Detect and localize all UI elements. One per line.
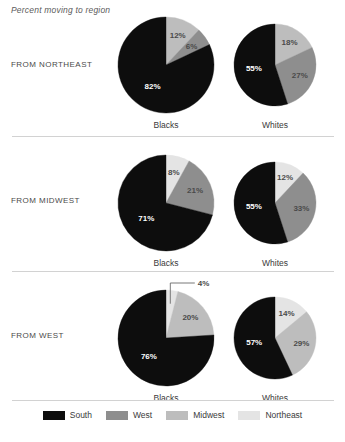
legend-swatch-northeast — [238, 411, 260, 420]
slice-label: 57% — [246, 338, 262, 347]
legend-swatch-midwest — [166, 411, 188, 420]
slice-label: 20% — [182, 313, 198, 322]
legend-item-west: West — [106, 410, 152, 420]
legend-item-midwest: Midwest — [166, 410, 224, 420]
pie-caption-blacks: Blacks — [116, 120, 216, 130]
legend-label: Northeast — [265, 410, 302, 420]
slice-label: 6% — [186, 42, 198, 51]
row-label-0: FROM NORTHEAST — [11, 60, 92, 69]
legend-label: South — [70, 410, 92, 420]
slice-label: 14% — [278, 309, 294, 318]
pie-chart-from-west-blacks: 4%20%76% — [115, 287, 217, 389]
slice-label: 12% — [277, 173, 293, 182]
pie-chart-from-northeast-whites: 18%27%55% — [231, 21, 319, 109]
row-divider — [12, 136, 334, 137]
slice-label: 4% — [198, 279, 210, 288]
pie-caption-whites: Whites — [225, 120, 325, 130]
pie-caption-blacks: Blacks — [116, 258, 216, 268]
slice-label: 55% — [246, 202, 262, 211]
slice-label: 27% — [292, 71, 308, 80]
slice-label: 82% — [145, 82, 161, 91]
slice-label: 71% — [138, 214, 154, 223]
legend-item-south: South — [43, 410, 92, 420]
pie-caption-whites: Whites — [225, 393, 325, 403]
pie-chart-from-northeast-blacks: 12%6%82% — [115, 14, 217, 116]
pie-chart-figure: Percent moving to region FROM NORTHEAST1… — [0, 0, 345, 442]
legend-item-northeast: Northeast — [238, 410, 302, 420]
pie-chart-from-midwest-whites: 12%33%55% — [231, 159, 319, 247]
legend-label: West — [133, 410, 152, 420]
slice-label: 33% — [293, 204, 309, 213]
slice-label: 29% — [293, 339, 309, 348]
row-label-2: FROM WEST — [11, 331, 64, 340]
legend-label: Midwest — [193, 410, 224, 420]
pie-caption-blacks: Blacks — [116, 393, 216, 403]
pie-caption-whites: Whites — [225, 258, 325, 268]
slice-label: 18% — [281, 38, 297, 47]
chart-legend: SouthWestMidwestNortheast — [0, 410, 345, 420]
slice-label: 55% — [246, 64, 262, 73]
figure-title: Percent moving to region — [11, 5, 110, 15]
slice-label: 12% — [170, 31, 186, 40]
slice-label: 8% — [168, 168, 180, 177]
slice-label: 21% — [187, 186, 203, 195]
legend-swatch-west — [106, 411, 128, 420]
slice-label: 76% — [141, 352, 157, 361]
row-label-1: FROM MIDWEST — [11, 196, 80, 205]
row-divider — [12, 400, 334, 401]
legend-swatch-south — [43, 411, 65, 420]
pie-chart-from-west-whites: 14%29%57% — [231, 294, 319, 382]
row-divider — [12, 271, 334, 272]
pie-chart-from-midwest-blacks: 8%21%71% — [115, 152, 217, 254]
